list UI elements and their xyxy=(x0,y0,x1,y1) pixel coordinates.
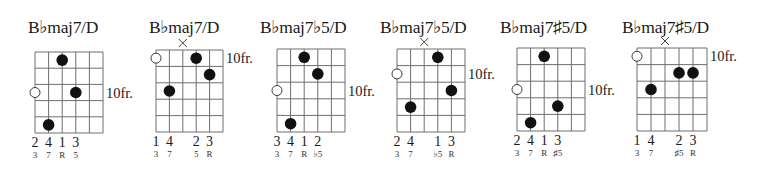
chord-diagram-1: 10fr.241337R5 xyxy=(35,52,103,133)
interval-label: 3 xyxy=(275,149,280,159)
open-circle-marker xyxy=(632,51,642,61)
chord-title: B♭maj7♭5/D xyxy=(260,19,346,37)
finger-number: 2 xyxy=(676,133,683,148)
chord-title: B♭maj7/D xyxy=(28,19,98,37)
interval-label: 3 xyxy=(33,150,38,160)
finger-number: 4 xyxy=(407,134,414,149)
interval-label: 7 xyxy=(288,149,293,159)
interval-label: 7 xyxy=(167,149,172,159)
finger-number: 3 xyxy=(274,134,281,149)
interval-label: 7 xyxy=(528,148,533,158)
interval-label: ♭5 xyxy=(313,149,322,159)
finger-number: 1 xyxy=(634,133,641,148)
finger-number: 1 xyxy=(301,134,308,149)
interval-label: 7 xyxy=(649,148,654,158)
finger-number: 4 xyxy=(287,134,294,149)
finger-dot xyxy=(204,69,216,81)
finger-dot xyxy=(312,68,324,80)
chord-diagram-5: 10fr.241337R♯5 xyxy=(517,48,585,131)
chord-diagram-6: 10fr.142337♯5R xyxy=(637,48,707,131)
interval-label: 5 xyxy=(194,149,199,159)
interval-label: R xyxy=(59,150,65,160)
interval-label: R xyxy=(690,148,696,158)
interval-label: 3 xyxy=(635,148,640,158)
interval-label: R xyxy=(541,148,547,158)
finger-dot xyxy=(70,87,82,99)
finger-dot xyxy=(552,100,564,112)
interval-label: ♯5 xyxy=(675,148,685,158)
fretboard: 10fr.341237R♭5 xyxy=(277,49,345,132)
finger-number: 4 xyxy=(166,134,173,149)
interval-label: 7 xyxy=(408,149,413,159)
open-circle-marker xyxy=(272,86,282,96)
fret-position-label: 10fr. xyxy=(348,83,375,99)
finger-dot xyxy=(673,67,685,79)
finger-number: 4 xyxy=(45,135,52,150)
finger-dot xyxy=(56,54,68,66)
chord-diagram-3: 10fr.341237R♭5 xyxy=(277,49,345,132)
interval-label: R xyxy=(301,149,307,159)
finger-dot xyxy=(285,118,297,130)
finger-number: 3 xyxy=(448,134,455,149)
finger-dot xyxy=(43,119,55,131)
open-circle-marker xyxy=(392,69,402,79)
finger-dot xyxy=(190,52,202,64)
finger-dot xyxy=(446,85,458,97)
chord-title: B♭maj7♭5/D xyxy=(380,19,466,37)
finger-number: 1 xyxy=(434,134,441,149)
finger-dot xyxy=(645,84,657,96)
fret-position-label: 10fr. xyxy=(468,66,495,82)
chord-title: B♭maj7♯5/D xyxy=(500,19,587,37)
interval-label: 7 xyxy=(46,150,51,160)
finger-number: 2 xyxy=(394,134,401,149)
fretboard: 10fr.1423375R xyxy=(156,50,223,132)
open-circle-marker xyxy=(30,88,40,98)
fretboard: 10fr.241337R5 xyxy=(35,52,103,133)
interval-label: 5 xyxy=(74,150,79,160)
finger-dot xyxy=(687,67,699,79)
finger-number: 2 xyxy=(314,134,321,149)
finger-dot xyxy=(525,117,537,129)
fret-position-label: 10fr. xyxy=(710,48,737,64)
finger-number: 4 xyxy=(648,133,655,148)
fretboard: 10fr.142337♯5R xyxy=(637,48,707,131)
finger-dot xyxy=(405,101,417,113)
interval-label: R xyxy=(207,149,213,159)
interval-label: 3 xyxy=(395,149,400,159)
finger-number: 1 xyxy=(541,133,548,148)
fretboard: 10fr.241337R♯5 xyxy=(517,48,585,131)
open-circle-marker xyxy=(151,53,161,63)
finger-dot xyxy=(432,52,444,64)
finger-number: 3 xyxy=(554,133,561,148)
chord-title: B♭maj7♯5/D xyxy=(622,19,709,37)
finger-dot xyxy=(538,51,550,63)
finger-number: 2 xyxy=(514,133,521,148)
open-circle-marker xyxy=(512,85,522,95)
chord-diagram-4: 10fr.241337♭5R xyxy=(397,49,465,132)
interval-label: 3 xyxy=(515,148,520,158)
chord-diagram-2: 10fr.1423375R xyxy=(156,50,223,132)
interval-label: R xyxy=(448,149,454,159)
finger-number: 1 xyxy=(59,135,66,150)
finger-number: 3 xyxy=(690,133,697,148)
finger-number: 3 xyxy=(206,134,213,149)
fret-position-label: 10fr. xyxy=(226,50,253,66)
finger-dot xyxy=(164,85,176,97)
finger-dot xyxy=(298,52,310,64)
finger-number: 1 xyxy=(153,134,160,149)
interval-label: ♭5 xyxy=(433,149,442,159)
finger-number: 2 xyxy=(32,135,39,150)
finger-number: 3 xyxy=(72,135,79,150)
chord-title: B♭maj7/D xyxy=(149,19,219,37)
finger-number: 4 xyxy=(527,133,534,148)
interval-label: 3 xyxy=(154,149,159,159)
fretboard: 10fr.241337♭5R xyxy=(397,49,465,132)
interval-label: ♯5 xyxy=(553,148,563,158)
finger-number: 2 xyxy=(193,134,200,149)
fret-position-label: 10fr. xyxy=(106,85,133,101)
fret-position-label: 10fr. xyxy=(588,82,615,98)
